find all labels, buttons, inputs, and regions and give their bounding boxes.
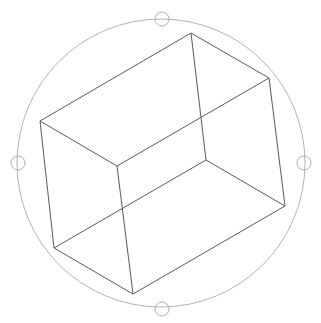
box-edge xyxy=(54,160,206,248)
wireframe-box xyxy=(40,33,285,294)
box-edge xyxy=(206,160,285,206)
box-edge xyxy=(40,121,117,166)
box-edge xyxy=(40,33,191,121)
box-edge xyxy=(117,78,269,166)
arcball-handles xyxy=(11,12,311,316)
box-edge xyxy=(40,121,54,248)
arcball-handle-right-icon[interactable] xyxy=(297,156,311,170)
box-edge xyxy=(191,33,206,160)
arcball-handle-bottom-icon[interactable] xyxy=(155,302,169,316)
3d-orbit-viewport[interactable] xyxy=(0,0,321,323)
orbit-scene[interactable] xyxy=(0,0,321,323)
box-edge xyxy=(117,166,133,294)
arcball-handle-left-icon[interactable] xyxy=(11,156,25,170)
arcball-circle[interactable] xyxy=(17,19,305,307)
box-edge xyxy=(133,206,285,294)
box-edge xyxy=(269,78,285,206)
